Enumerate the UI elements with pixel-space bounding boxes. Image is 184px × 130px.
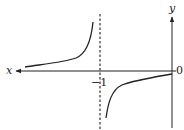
origin-label: 0 xyxy=(176,65,183,76)
x-axis-label: x xyxy=(6,65,12,76)
asymptote-tick-label: −1 xyxy=(91,77,107,88)
curve-left-branch xyxy=(25,22,93,67)
function-plot xyxy=(0,0,184,130)
y-axis-label: y xyxy=(169,3,175,14)
curve-right-branch xyxy=(106,74,172,118)
